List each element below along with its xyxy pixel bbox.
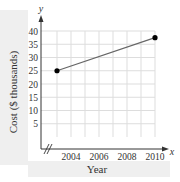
- x-tick-label: 2006: [90, 152, 109, 162]
- x-tick-label: 2010: [146, 152, 165, 162]
- y-tick-label: 15: [29, 93, 39, 103]
- y-tick-label: 35: [29, 40, 39, 50]
- data-point: [152, 35, 157, 40]
- x-axis-label: Year: [87, 163, 108, 175]
- y-axis-label: Cost ($ thousands): [7, 50, 20, 133]
- y-tick-label: 30: [29, 53, 39, 63]
- data-point: [54, 68, 59, 73]
- tick-labels: 5101520253035402004200620082010: [29, 27, 165, 163]
- y-tick-label: 10: [29, 106, 39, 116]
- y-axis-arrow-icon: [39, 15, 44, 22]
- x-axis-letter: x: [169, 146, 175, 157]
- y-tick-label: 5: [33, 119, 38, 129]
- x-axis-arrow-icon: [162, 147, 169, 152]
- series-line: [57, 38, 155, 71]
- chart: 5101520253035402004200620082010 y x Year…: [0, 0, 180, 182]
- x-tick-label: 2004: [62, 152, 81, 162]
- grid: [41, 31, 155, 137]
- y-axis-letter: y: [38, 3, 44, 14]
- series: [54, 35, 157, 73]
- y-tick-label: 40: [29, 27, 39, 37]
- y-tick-label: 25: [29, 66, 39, 76]
- y-tick-label: 20: [29, 80, 39, 90]
- x-tick-label: 2008: [118, 152, 137, 162]
